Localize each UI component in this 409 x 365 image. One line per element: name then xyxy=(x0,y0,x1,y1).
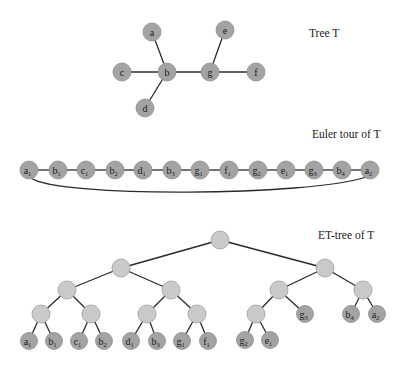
diagram-canvas: acbdgef a1b1c1b2d1b3g1f1g2e1g3b4a2 a1b1c… xyxy=(0,0,409,365)
et-tree-label: ET-tree of T xyxy=(318,229,374,241)
tree-t-label: Tree T xyxy=(309,27,339,39)
node-label: e xyxy=(223,25,228,36)
et-inner-node xyxy=(58,281,76,299)
et-inner-node xyxy=(188,305,206,323)
et-inner-node xyxy=(32,305,50,323)
euler-tour: a1b1c1b2d1b3g1f1g2e1g3b4a2 xyxy=(20,161,379,192)
et-inner-node xyxy=(112,259,130,277)
euler-tour-label: Euler tour of T xyxy=(312,128,380,140)
node-label: g xyxy=(208,67,213,78)
edge xyxy=(121,240,220,268)
et-inner-node xyxy=(316,259,334,277)
et-tree: a1b1c1b2d1b3g1f1g2e1g3b4a2 xyxy=(21,231,386,350)
node-label: a xyxy=(150,27,155,38)
et-inner-node xyxy=(211,231,229,249)
et-inner-node xyxy=(82,305,100,323)
node-label: d xyxy=(143,103,148,114)
et-inner-node xyxy=(247,305,265,323)
tree-t: acbdgef xyxy=(113,21,265,117)
et-inner-node xyxy=(162,281,180,299)
et-inner-node xyxy=(138,305,156,323)
edge xyxy=(220,240,325,268)
node-label: c xyxy=(120,67,125,78)
node-label: b xyxy=(165,67,170,78)
et-inner-node xyxy=(354,281,372,299)
et-inner-node xyxy=(270,281,288,299)
